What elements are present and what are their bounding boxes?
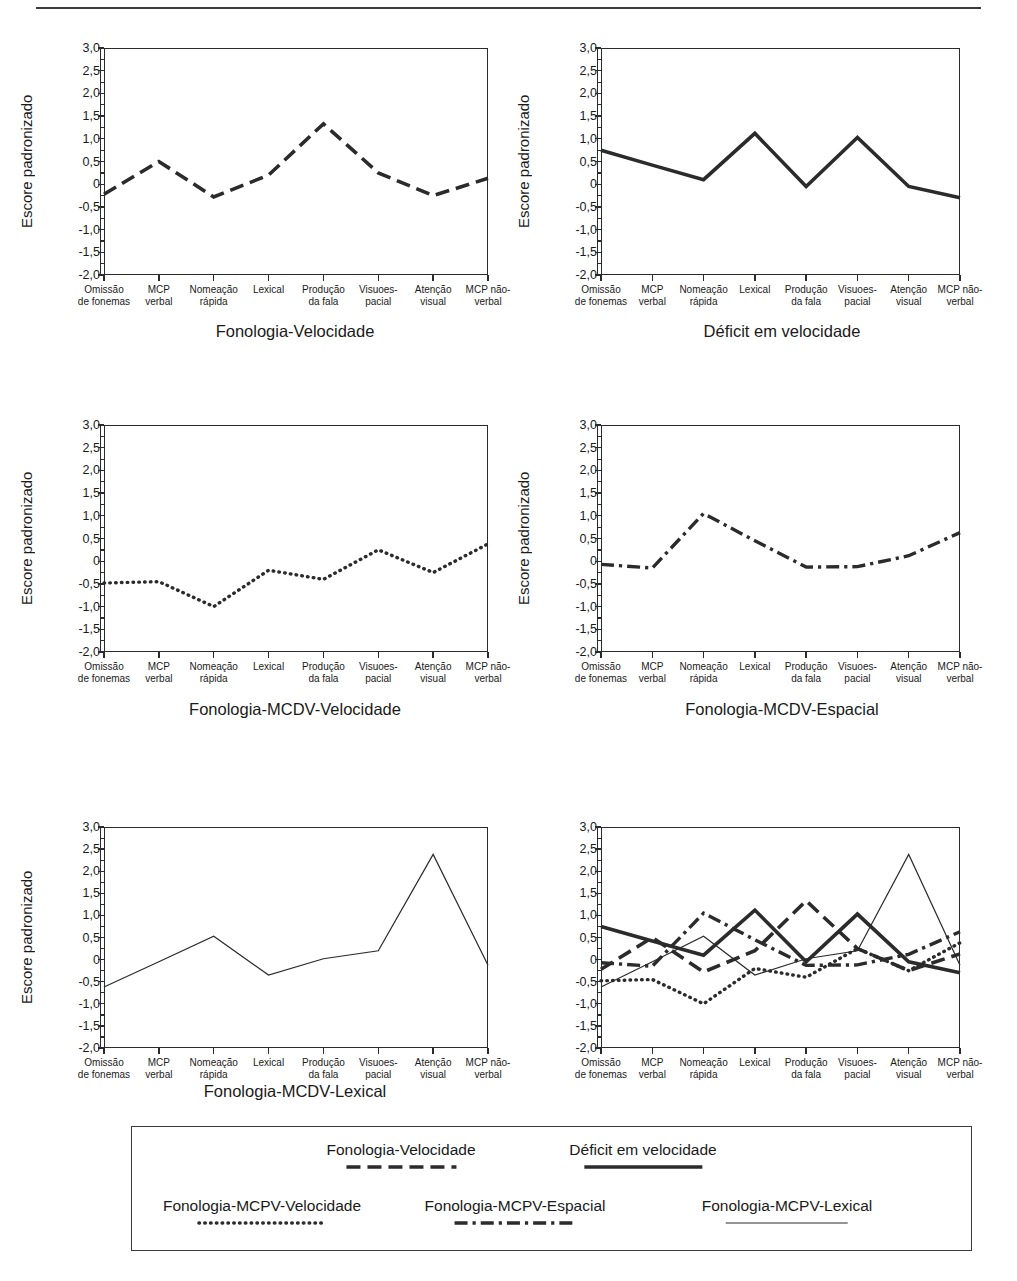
x-tick-mark — [754, 1048, 755, 1054]
y-tick-label: -1,0 — [575, 997, 597, 1011]
y-tick-label: -0,5 — [575, 975, 597, 989]
legend-swatch — [199, 1219, 325, 1227]
x-tick-label: Produçãoda fala — [785, 1057, 828, 1081]
x-tick-label: MCPverbal — [639, 1057, 666, 1081]
x-tick-mark — [703, 1048, 704, 1054]
x-tick-mark — [908, 1048, 909, 1054]
legend-item: Fonologia-MCPV-Velocidade — [163, 1197, 361, 1227]
x-tick-mark — [652, 1048, 653, 1054]
x-tick-mark — [857, 1048, 858, 1054]
legend-label: Fonologia-MCPV-Velocidade — [163, 1197, 361, 1215]
legend-swatch — [346, 1163, 456, 1171]
legend-label: Fonologia-Velocidade — [326, 1141, 475, 1159]
legend-item: Fonologia-MCPV-Espacial — [425, 1197, 606, 1227]
legend-item: Fonologia-MCPV-Lexical — [702, 1197, 873, 1227]
legend-label: Déficit em velocidade — [569, 1141, 716, 1159]
legend-swatch — [455, 1219, 575, 1227]
legend-swatch — [726, 1219, 848, 1227]
legend-label: Fonologia-MCPV-Lexical — [702, 1197, 873, 1215]
x-tick-label: Omissãode fonemas — [575, 1057, 627, 1081]
chart-panel: 3,02,52,01,51,00,50-0,5-1,0-1,5-2,0Omiss… — [0, 0, 1017, 1281]
y-tick-label: -2,0 — [575, 1041, 597, 1055]
x-tick-mark — [600, 1048, 601, 1054]
y-tick-label: -1,5 — [575, 1019, 597, 1033]
x-tick-label: MCP não-verbal — [938, 1057, 983, 1081]
figure-root: Escore padronizado3,02,52,01,51,00,50-0,… — [0, 0, 1017, 1281]
y-axis-ticks: 3,02,52,01,51,00,50-0,5-1,0-1,5-2,0 — [555, 827, 597, 1048]
plot-area — [601, 827, 960, 1048]
legend-label: Fonologia-MCPV-Espacial — [425, 1197, 606, 1215]
chart-legend: Fonologia-VelocidadeDéficit em velocidad… — [131, 1126, 972, 1251]
x-tick-label: Nomeaçãorápida — [679, 1057, 727, 1081]
legend-swatch — [584, 1163, 702, 1171]
series-layer — [0, 0, 1017, 1281]
legend-item: Déficit em velocidade — [569, 1141, 716, 1171]
x-tick-mark — [959, 1048, 960, 1054]
x-tick-mark — [805, 1048, 806, 1054]
x-tick-label: Atençãovisual — [890, 1057, 927, 1081]
x-tick-label: Visuoes-pacial — [838, 1057, 877, 1081]
x-tick-label: Lexical — [739, 1057, 770, 1069]
legend-item: Fonologia-Velocidade — [326, 1141, 475, 1171]
